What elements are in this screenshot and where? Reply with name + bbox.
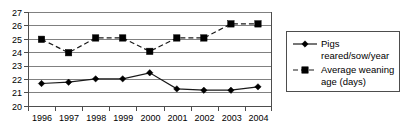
x-tick-label: 2001: [167, 113, 187, 123]
legend-label-line2: age (days): [321, 76, 366, 87]
data-point-square: [201, 35, 207, 41]
x-axis-tick-labels: 1996 1997 1998 1999 2000 2001 2002 2003 …: [32, 113, 268, 123]
data-point-square: [38, 36, 44, 42]
data-point-square: [92, 35, 98, 41]
legend-marker-square: [302, 67, 308, 73]
y-tick-label: 22: [12, 75, 22, 85]
y-tick-label: 25: [12, 35, 22, 45]
legend-label-line2: reared/sow/year: [321, 50, 389, 61]
legend-label-line1: Pigs: [321, 38, 340, 49]
x-tick-label: 1999: [113, 113, 133, 123]
x-tick-label: 2003: [222, 113, 242, 123]
data-point-square: [119, 35, 125, 41]
x-tick-label: 1996: [32, 113, 52, 123]
chart-canvas: 27 26 25 24 23 22 21 20 1996 1997 1998: [0, 0, 409, 136]
legend-label-line1: Average weaning: [321, 64, 394, 75]
y-tick-label: 23: [12, 61, 22, 71]
data-point-square: [255, 21, 261, 27]
x-tick-label: 2000: [140, 113, 160, 123]
data-point-square: [65, 50, 71, 56]
data-point-square: [228, 21, 234, 27]
data-point-square: [147, 48, 153, 54]
y-tick-label: 26: [12, 21, 22, 31]
x-tick-label: 2004: [248, 113, 268, 123]
line-chart: 27 26 25 24 23 22 21 20 1996 1997 1998: [0, 0, 409, 136]
x-tick-label: 1997: [59, 113, 79, 123]
y-axis-tick-labels: 27 26 25 24 23 22 21 20: [12, 8, 22, 112]
y-tick-label: 21: [12, 88, 22, 98]
y-tick-marks: [24, 13, 28, 107]
chart-legend: Pigs reared/sow/year Average weaning age…: [287, 32, 400, 92]
y-tick-label: 24: [12, 48, 22, 58]
x-tick-label: 2002: [195, 113, 215, 123]
y-tick-label: 20: [12, 102, 22, 112]
x-tick-label: 1998: [86, 113, 106, 123]
data-point-square: [174, 35, 180, 41]
y-tick-label: 27: [12, 8, 22, 18]
